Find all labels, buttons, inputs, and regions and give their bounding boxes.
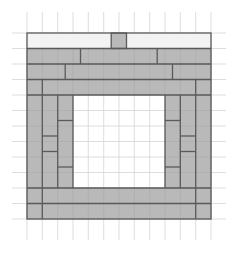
block-frame-diagram <box>0 0 230 254</box>
frame-fill <box>27 33 211 219</box>
chimney-tile <box>111 33 126 49</box>
